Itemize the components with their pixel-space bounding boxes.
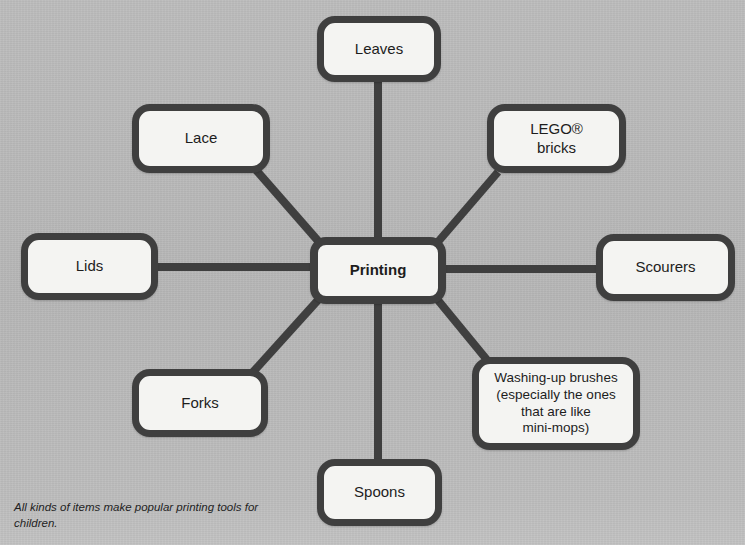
mind-map-diagram: LeavesLEGO® bricksScourersWashing-up bru…	[0, 0, 745, 545]
node-washing-label: Washing-up brushes (especially the ones …	[488, 370, 623, 438]
node-forks-label: Forks	[175, 394, 225, 413]
node-lace[interactable]: Lace	[132, 104, 270, 173]
central-node-label: Printing	[344, 261, 413, 280]
node-scourers[interactable]: Scourers	[596, 234, 735, 301]
node-scourers-label: Scourers	[629, 258, 701, 277]
node-forks[interactable]: Forks	[132, 369, 268, 437]
node-spoons[interactable]: Spoons	[317, 459, 442, 526]
node-lids-label: Lids	[70, 257, 110, 276]
edge-printing-to-lace	[256, 170, 319, 242]
edge-printing-to-washing	[437, 299, 492, 366]
node-lego-label: LEGO® bricks	[524, 120, 589, 158]
node-lace-label: Lace	[179, 129, 224, 148]
node-lids[interactable]: Lids	[21, 233, 158, 300]
figure-caption: All kinds of items make popular printing…	[14, 500, 269, 532]
node-leaves-label: Leaves	[349, 40, 409, 59]
edge-printing-to-forks	[253, 299, 319, 372]
central-node-printing[interactable]: Printing	[310, 237, 446, 304]
node-washing[interactable]: Washing-up brushes (especially the ones …	[472, 357, 640, 450]
node-lego[interactable]: LEGO® bricks	[487, 104, 626, 173]
node-leaves[interactable]: Leaves	[317, 16, 441, 82]
edge-printing-to-lego	[437, 172, 498, 243]
node-spoons-label: Spoons	[348, 483, 411, 502]
